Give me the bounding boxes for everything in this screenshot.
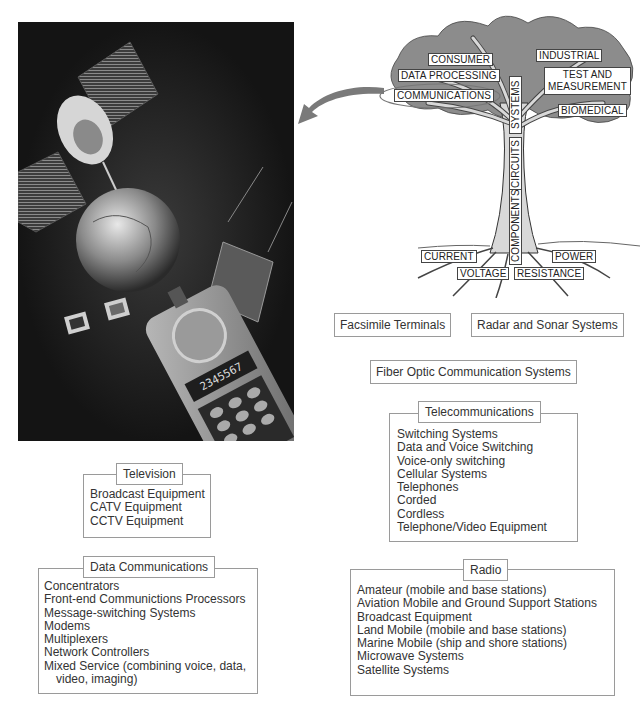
list-item: Multiplexers: [44, 633, 254, 646]
list-item: Front-end Communictions Processors: [44, 593, 254, 606]
data-communications-box: Concentrators Front-end Communictions Pr…: [38, 568, 258, 694]
telecommunications-box: Switching Systems Data and Voice Switchi…: [389, 413, 578, 542]
tree-label-circuits: CIRCUITS: [509, 137, 522, 191]
tree-label-communications: COMMUNICATIONS: [394, 89, 494, 102]
radar-sonar-systems-box: Radar and Sonar Systems: [471, 313, 624, 337]
tree-label-test-and-measurement: TEST AND MEASUREMENT: [544, 67, 631, 95]
television-title: Television: [116, 463, 183, 485]
tree-label-test-and: TEST AND: [548, 69, 627, 81]
list-item: Modems: [44, 620, 254, 633]
arrow-icon: [290, 82, 390, 130]
tree-label-data-processing: DATA PROCESSING: [398, 69, 500, 82]
television-list: Broadcast Equipment CATV Equipment CCTV …: [90, 488, 205, 528]
list-item: Cellular Systems: [397, 468, 547, 481]
data-communications-title: Data Communications: [83, 556, 215, 578]
globe: [76, 188, 180, 292]
tree-label-power: POWER: [552, 250, 596, 263]
electronics-tree-diagram: CONSUMER DATA PROCESSING COMMUNICATIONS …: [378, 8, 642, 298]
list-item: Satellite Systems: [357, 664, 597, 677]
list-item: CATV Equipment: [90, 501, 205, 514]
list-item: CCTV Equipment: [90, 515, 205, 528]
photo-collage: 2345567: [18, 22, 294, 441]
list-item: Data and Voice Switching: [397, 441, 547, 454]
list-item: Cordless: [397, 508, 547, 521]
list-item: Land Mobile (mobile and base stations): [357, 624, 597, 637]
tree-label-voltage: VOLTAGE: [457, 267, 509, 280]
radio-title: Radio: [463, 559, 508, 581]
list-item: Voice-only switching: [397, 455, 547, 468]
list-item: Microwave Systems: [357, 650, 597, 663]
facsimile-terminals-box: Facsimile Terminals: [334, 313, 451, 337]
fiber-optic-box: Fiber Optic Communication Systems: [370, 360, 577, 384]
data-communications-list: Concentrators Front-end Communictions Pr…: [44, 580, 254, 686]
list-item: Marine Mobile (ship and shore stations): [357, 637, 597, 650]
list-item: Message-switching Systems: [44, 607, 254, 620]
telecommunications-list: Switching Systems Data and Voice Switchi…: [397, 428, 547, 534]
tree-label-industrial: INDUSTRIAL: [536, 49, 602, 62]
list-item: Aviation Mobile and Ground Support Stati…: [357, 597, 597, 610]
tree-label-resistance: RESISTANCE: [514, 267, 584, 280]
list-item: Mixed Service (combining voice, data, vi…: [44, 660, 254, 687]
list-item: Amateur (mobile and base stations): [357, 584, 597, 597]
tree-label-measurement: MEASUREMENT: [548, 81, 627, 93]
telecommunications-title: Telecommunications: [418, 401, 541, 423]
radio-box: Amateur (mobile and base stations) Aviat…: [350, 569, 615, 696]
communications-photo: 2345567: [18, 22, 294, 441]
list-item: Telephones: [397, 481, 547, 494]
tree-label-components: COMPONENTS: [509, 189, 522, 265]
list-item: Concentrators: [44, 580, 254, 593]
list-item: Network Controllers: [44, 646, 254, 659]
tree-label-consumer: CONSUMER: [428, 53, 493, 66]
tree-label-biomedical: BIOMEDICAL: [558, 104, 627, 117]
tree-label-current: CURRENT: [421, 250, 477, 263]
list-item: Switching Systems: [397, 428, 547, 441]
tree-label-systems: SYSTEMS: [509, 76, 522, 134]
radio-list: Amateur (mobile and base stations) Aviat…: [357, 584, 597, 677]
list-item: Broadcast Equipment: [357, 611, 597, 624]
list-item: Corded: [397, 494, 547, 507]
list-item: Telephone/Video Equipment: [397, 521, 547, 534]
list-item: Broadcast Equipment: [90, 488, 205, 501]
